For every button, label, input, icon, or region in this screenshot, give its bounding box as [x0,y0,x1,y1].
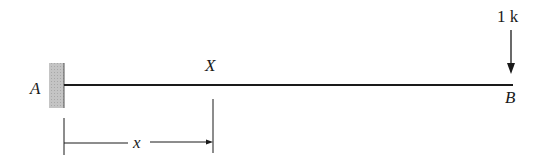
support-label-a: A [29,79,41,98]
load-label: 1 k [497,7,519,26]
load-arrow-head-icon [507,63,515,74]
dimension-arrow-head-icon [206,140,213,145]
end-label-b: B [505,88,516,107]
fixed-support-wall [49,63,64,108]
dimension-label-x: x [132,133,141,152]
beam-diagram: A X B 1 k x [0,0,545,164]
section-label-x: X [204,56,216,75]
